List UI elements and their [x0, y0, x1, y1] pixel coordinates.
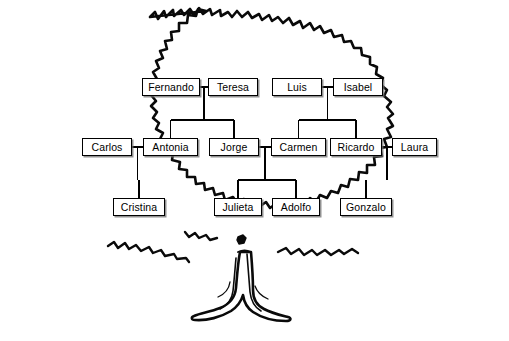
person-label: Adolfo	[281, 202, 311, 213]
person-label: Laura	[401, 142, 428, 153]
person-label: Luis	[287, 82, 307, 93]
person-box-antonia[interactable]: Antonia	[143, 138, 198, 156]
person-box-fernando[interactable]: Fernando	[142, 78, 200, 96]
person-label: Teresa	[217, 82, 249, 93]
person-box-carlos[interactable]: Carlos	[82, 138, 132, 156]
person-label: Carlos	[92, 142, 123, 153]
person-box-julieta[interactable]: Julieta	[214, 198, 262, 216]
person-label: Ricardo	[338, 142, 375, 153]
person-box-ricardo[interactable]: Ricardo	[330, 138, 382, 156]
person-box-laura[interactable]: Laura	[392, 138, 437, 156]
person-box-carmen[interactable]: Carmen	[271, 138, 326, 156]
person-box-jorge[interactable]: Jorge	[209, 138, 259, 156]
person-label: Cristina	[121, 202, 157, 213]
person-box-cristina[interactable]: Cristina	[113, 198, 165, 216]
person-label: Julieta	[222, 202, 253, 213]
person-box-luis[interactable]: Luis	[272, 78, 322, 96]
person-box-isabel[interactable]: Isabel	[333, 78, 383, 96]
person-box-gonzalo[interactable]: Gonzalo	[340, 198, 392, 216]
person-label: Jorge	[221, 142, 248, 153]
person-box-adolfo[interactable]: Adolfo	[272, 198, 320, 216]
connector-lines	[0, 0, 509, 341]
family-tree-image: FernandoTeresaLuisIsabelCarlosAntoniaJor…	[0, 0, 509, 341]
family-tree-chart: FernandoTeresaLuisIsabelCarlosAntoniaJor…	[0, 0, 509, 341]
person-label: Isabel	[344, 82, 373, 93]
person-label: Carmen	[280, 142, 318, 153]
person-box-teresa[interactable]: Teresa	[208, 78, 258, 96]
person-label: Fernando	[148, 82, 194, 93]
person-label: Antonia	[152, 142, 188, 153]
person-label: Gonzalo	[346, 202, 386, 213]
